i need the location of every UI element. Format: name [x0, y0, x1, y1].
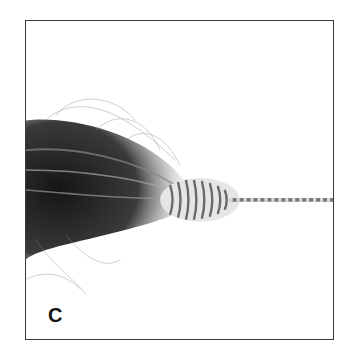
- figure-panel: C: [25, 20, 334, 340]
- panel-label: C: [48, 305, 62, 325]
- wire-coil: [160, 178, 239, 222]
- hair-wire-photo: [26, 21, 333, 339]
